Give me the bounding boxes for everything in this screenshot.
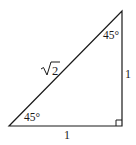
triangle-diagram: 45° 45° 2 1 1 — [0, 0, 136, 145]
top-angle-label: 45° — [103, 29, 120, 41]
bottom-side-label: 1 — [64, 128, 70, 142]
bottom-left-angle-label: 45° — [24, 111, 41, 123]
hypotenuse-radicand: 2 — [52, 64, 58, 78]
hypotenuse-label: 2 — [41, 62, 60, 78]
right-angle-marker-icon — [116, 120, 122, 126]
right-side-label: 1 — [125, 67, 131, 81]
triangle-figure: 45° 45° 2 1 1 — [0, 0, 136, 145]
